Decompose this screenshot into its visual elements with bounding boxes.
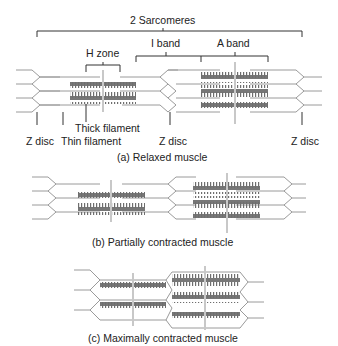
caption-relaxed: (a) Relaxed muscle <box>117 152 207 163</box>
sarcomeres-label: 2 Sarcomeres <box>130 15 195 26</box>
caption-maximal: (c) Maximally contracted muscle <box>88 333 238 344</box>
panel-b-partial <box>32 177 306 219</box>
panel-a-relaxed <box>16 70 322 112</box>
z-disc-label-3: Z disc <box>291 136 319 147</box>
z-disc-label-2: Z disc <box>159 136 187 147</box>
a-band-label: A band <box>217 38 250 49</box>
thick-filaments-a <box>70 62 268 124</box>
i-band-label: I band <box>151 38 180 49</box>
sarcomere-diagram <box>0 0 338 346</box>
thick-filament-label: Thick filament <box>75 123 140 134</box>
z-disc-label-1: Z disc <box>26 136 54 147</box>
caption-partial: (b) Partially contracted muscle <box>92 237 233 248</box>
thin-filament-label: Thin filament <box>61 136 121 147</box>
h-zone-label: H zone <box>86 48 119 59</box>
thick-filaments-b <box>78 173 260 233</box>
